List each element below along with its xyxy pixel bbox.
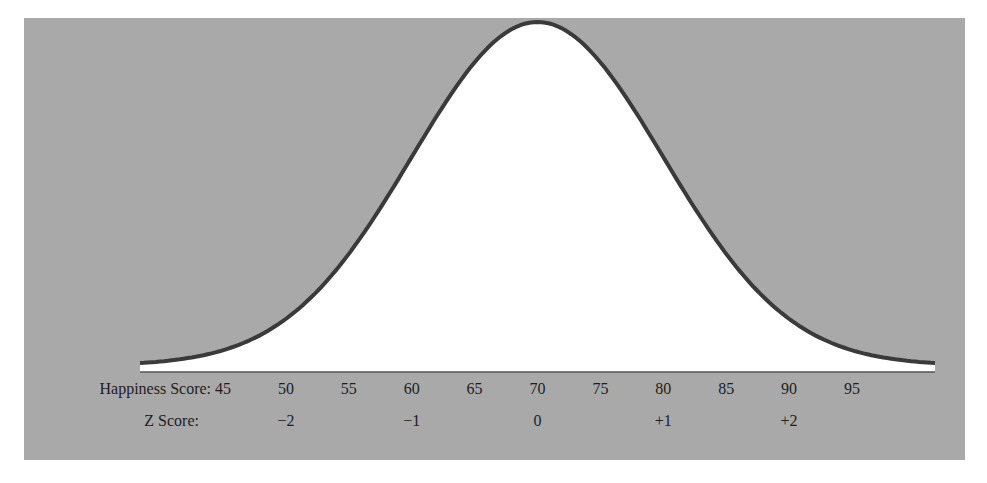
happiness-tick-label: 45 xyxy=(215,380,231,398)
happiness-tick-label: 55 xyxy=(341,380,357,398)
z-score-tick-label: −2 xyxy=(277,412,294,430)
happiness-tick-label: 50 xyxy=(278,380,294,398)
happiness-tick-label: 70 xyxy=(530,380,546,398)
z-score-tick-label: +2 xyxy=(781,412,798,430)
z-score-tick-label: +1 xyxy=(655,412,672,430)
z-score-tick-label: −1 xyxy=(403,412,420,430)
happiness-tick-label: 65 xyxy=(467,380,483,398)
happiness-tick-label: 80 xyxy=(655,380,671,398)
happiness-tick-label: 60 xyxy=(404,380,420,398)
happiness-tick-label: 85 xyxy=(718,380,734,398)
happiness-tick-label: 75 xyxy=(592,380,608,398)
z-score-row-label: Z Score: xyxy=(144,412,199,430)
happiness-tick-label: 95 xyxy=(844,380,860,398)
happiness-tick-label: 90 xyxy=(781,380,797,398)
happiness-score-row-label: Happiness Score: xyxy=(99,380,211,398)
curve-area-fill xyxy=(140,22,935,372)
normal-curve-plot xyxy=(0,0,987,483)
z-score-tick-label: 0 xyxy=(534,412,542,430)
